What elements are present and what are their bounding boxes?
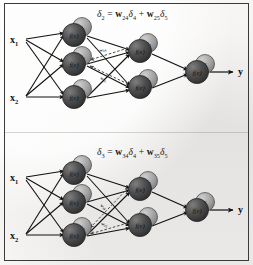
hidden1-node-3-bottom: δ3 f(e) [63, 218, 92, 247]
hidden1-node-1-top: δ1 f(e) [63, 18, 92, 47]
svg-text:f(e): f(e) [135, 186, 144, 194]
network-graphic-bottom: w34 w35 δ1 f(e) δ2 f(e) δ3 f(e) [0, 133, 253, 265]
diagram-panel-bottom: δ3 = w34δ4 + w35δ5 x1 x2 y [0, 133, 253, 265]
svg-text:w35: w35 [101, 221, 109, 228]
svg-text:w24: w24 [99, 46, 107, 54]
svg-text:f(e): f(e) [192, 69, 201, 77]
svg-text:f(e): f(e) [135, 84, 144, 92]
hidden1-node-2-bottom: δ2 f(e) [63, 185, 92, 214]
svg-text:f(e): f(e) [69, 61, 78, 69]
hidden2-node-5-bottom: δ5 f(e) [129, 208, 158, 237]
output-node-top: δ f(e) [186, 55, 215, 84]
svg-text:f(e): f(e) [192, 207, 201, 215]
svg-text:f(e): f(e) [69, 32, 78, 40]
svg-text:f(e): f(e) [69, 232, 78, 240]
hidden2-node-5-top: δ5 f(e) [129, 70, 158, 99]
hidden2-node-4-top: δ4 f(e) [129, 34, 158, 63]
hidden1-node-1-bottom: δ1 f(e) [63, 156, 92, 185]
hidden1-node-2-top: δ2 f(e) [63, 47, 92, 76]
backpropagation-figure: δ2 = w24δ4 + w25δ5 x1 x2 y [0, 0, 253, 265]
svg-text:f(e): f(e) [69, 199, 78, 207]
svg-text:f(e): f(e) [69, 94, 78, 102]
hidden1-node-3-top: δ3 f(e) [63, 80, 92, 109]
diagram-panel-top: δ2 = w24δ4 + w25δ5 x1 x2 y [0, 0, 253, 132]
svg-text:f(e): f(e) [135, 48, 144, 56]
hidden2-node-4-bottom: δ4 f(e) [129, 172, 158, 201]
output-node-bottom: δ f(e) [186, 193, 215, 222]
svg-text:f(e): f(e) [135, 222, 144, 230]
network-graphic-top: w24 w25 δ1 f(e) δ2 f(e) δ3 f(e) [0, 0, 253, 132]
svg-text:f(e): f(e) [69, 170, 78, 178]
